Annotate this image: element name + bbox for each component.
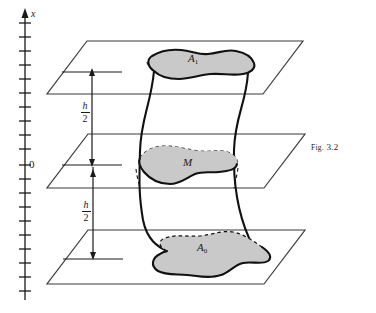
dimension-arrow-up-lower: [90, 169, 96, 177]
dimension-label-lower: h 2: [77, 200, 95, 223]
region-label-a1-base: A: [188, 52, 195, 64]
dimension-label-upper: h 2: [76, 101, 94, 124]
figure-3-2: x 0 A1 M A0 h 2 h 2 Fig. 3.2: [0, 0, 376, 313]
dimension-arrow-down: [89, 159, 95, 167]
axis-label-x: x: [31, 9, 35, 19]
axis-origin-label: 0: [29, 159, 35, 170]
region-label-a1-subscript: 1: [195, 58, 199, 66]
dimension-label-upper-denominator: 2: [76, 113, 94, 124]
axis-arrowhead: [22, 8, 29, 18]
x-axis: [19, 8, 31, 300]
dimension-label-lower-denominator: 2: [77, 212, 95, 223]
region-a1: [148, 50, 254, 79]
region-label-a0-base: A: [197, 241, 204, 253]
region-a0: [153, 232, 270, 277]
dimension-label-lower-numerator: h: [77, 200, 95, 211]
figure-caption-number: 3.2: [327, 142, 339, 152]
figure-caption-prefix: Fig.: [311, 143, 324, 152]
dimension-label-upper-numerator: h: [76, 101, 94, 112]
figure-caption: Fig. 3.2: [311, 142, 338, 152]
region-label-a1: A1: [188, 53, 198, 64]
region-label-a0-subscript: 0: [204, 247, 208, 255]
region-label-a0: A0: [197, 242, 207, 253]
region-label-m: M: [183, 157, 192, 168]
